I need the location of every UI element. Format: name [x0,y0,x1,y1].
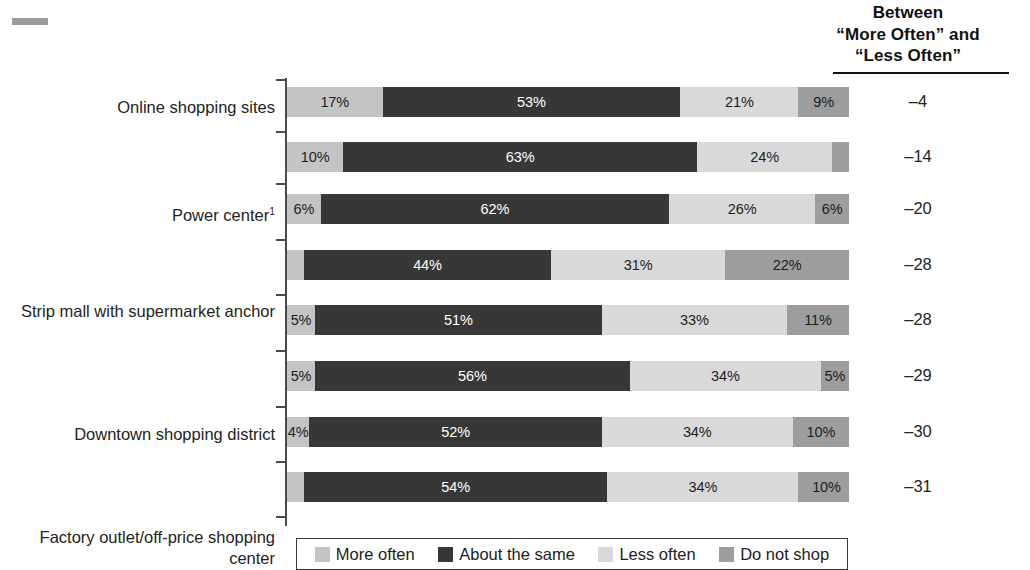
legend-label: Do not shop [740,545,829,564]
bar-segment-value: 17% [320,94,349,110]
stacked-bar: 4%52%34%10% [287,417,849,447]
stacked-bar: 5%56%34%5% [287,361,849,391]
bar-segment-same: 44% [304,250,551,280]
stacked-bar: 6%62%26%6% [287,194,849,224]
legend-swatch-more [315,547,330,562]
difference-column-header-line1: Between [790,2,1026,24]
difference-value: –20 [858,199,978,218]
legend-item: Less often [598,545,695,564]
bar-segment-noshop: 5% [821,361,849,391]
legend-label: About the same [459,545,575,564]
bar-segment-value: 34% [711,368,740,384]
difference-column-header: Between “More Often” and “Less Often” [790,2,1026,67]
chart-row: Power center110%63%24%3%–14 [0,139,1030,195]
bar-segment-less: 21% [680,87,798,117]
difference-value: –30 [858,422,978,441]
chart-legend: More oftenAbout the sameLess oftenDo not… [296,538,848,570]
bar-segment-less: 34% [602,417,793,447]
bar-segment-value: 4% [288,424,309,440]
bar-segment-value: 56% [458,368,487,384]
bar-segment-same: 56% [315,361,630,391]
bar-segment-value: 21% [725,94,754,110]
bar-segment-more: 4% [287,417,309,447]
bar-segment-same: 54% [304,472,607,502]
bar-segment-value: 51% [444,312,473,328]
legend-item: More often [315,545,415,564]
chart-row: Downtown shopping district3%44%31%22%–28 [0,247,1030,303]
axis-tick [276,79,286,81]
legend-label: Less often [619,545,695,564]
bar-segment-value: 44% [413,257,442,273]
bar-segment-value: 34% [683,424,712,440]
stacked-bar: 3%54%34%10% [287,472,849,502]
bar-segment-value: 34% [689,479,718,495]
bar-segment-more: 5% [287,361,315,391]
bar-segment-less: 31% [551,250,725,280]
category-label: Online shopping sites [20,97,275,118]
bar-segment-less: 34% [607,472,798,502]
chart-row: Online shopping sites17%53%21%9%–4 [0,84,1030,140]
difference-value: –4 [858,92,978,111]
category-label: Factory outlet/off-price shopping center [20,527,275,569]
legend-swatch-noshop [719,547,734,562]
bar-segment-value: 10% [812,479,841,495]
bar-segment-noshop: 10% [793,417,849,447]
legend-item: Do not shop [719,545,829,564]
bar-segment-less: 26% [669,194,815,224]
category-label-text: Factory outlet/off-price shopping center [40,528,275,567]
bar-segment-value: 10% [807,424,836,440]
bar-segment-noshop: 11% [787,305,849,335]
difference-value: –29 [858,366,978,385]
chart-row: Small strip mall with specialty stores3%… [0,469,1030,525]
bar-segment-value: 54% [441,479,470,495]
difference-column-header-rule [833,72,1009,74]
difference-value: –28 [858,255,978,274]
stacked-bar: 10%63%24%3% [287,142,849,172]
corner-mark [12,18,48,25]
bar-segment-noshop: 9% [798,87,849,117]
chart-row: Strip mall with supermarket anchor6%62%2… [0,191,1030,247]
bar-segment-value: 6% [293,201,314,217]
legend-label: More often [336,545,415,564]
bar-segment-value: 5% [291,312,312,328]
bar-segment-same: 63% [343,142,697,172]
difference-value: –14 [858,147,978,166]
bar-segment-value: 5% [291,368,312,384]
bar-segment-noshop: 3% [832,142,849,172]
bar-segment-same: 62% [321,194,669,224]
bar-segment-value: 62% [481,201,510,217]
legend-swatch-less [598,547,613,562]
stacked-bar: 5%51%33%11% [287,305,849,335]
legend-item: About the same [438,545,575,564]
chart-row: Regional mall25%56%34%5%–29 [0,358,1030,414]
category-label-text: Online shopping sites [117,98,275,116]
legend-swatch-same [438,547,453,562]
bar-segment-value: 33% [680,312,709,328]
bar-segment-value: 11% [804,312,832,328]
bar-segment-value: 9% [813,94,834,110]
bar-segment-value: 6% [822,201,843,217]
bar-segment-more: 3% [287,250,304,280]
bar-segment-value: 24% [750,149,779,165]
bar-segment-value: 53% [517,94,546,110]
stacked-bar: 17%53%21%9% [287,87,849,117]
difference-column-header-line2: “More Often” and [790,24,1026,46]
chart-row: Factory outlet/off-price shopping center… [0,302,1030,358]
bar-segment-less: 33% [602,305,787,335]
bar-segment-more: 3% [287,472,304,502]
difference-value: –28 [858,310,978,329]
bar-segment-less: 24% [697,142,832,172]
bar-segment-value: 52% [441,424,470,440]
bar-segment-same: 52% [309,417,601,447]
chart-plot-area: Online shopping sites17%53%21%9%–4Power … [0,78,1030,526]
bar-segment-value: 5% [825,368,846,384]
bar-segment-more: 10% [287,142,343,172]
bar-segment-value: 63% [506,149,535,165]
bar-segment-value: 10% [301,149,330,165]
difference-value: –31 [858,477,978,496]
chart-row: Lifestyle center34%52%34%10%–30 [0,414,1030,470]
bar-segment-more: 17% [287,87,383,117]
bar-segment-value: 31% [624,257,653,273]
bar-segment-noshop: 10% [798,472,849,502]
bar-segment-value: 22% [773,257,802,273]
